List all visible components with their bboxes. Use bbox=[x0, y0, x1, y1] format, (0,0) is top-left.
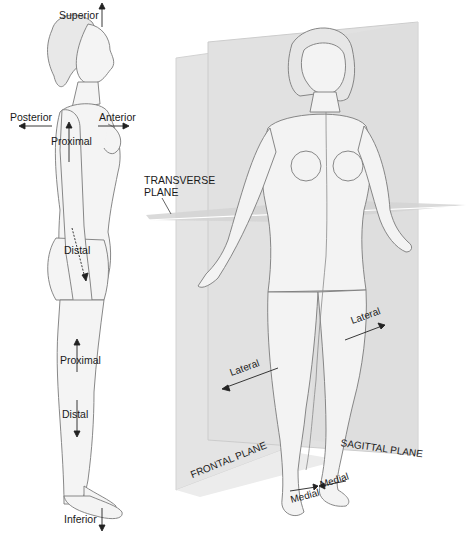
label-distal-leg: Distal bbox=[62, 409, 88, 420]
label-anterior: Anterior bbox=[99, 112, 136, 123]
label-transverse-plane-line2: PLANE bbox=[144, 187, 178, 198]
label-superior: Superior bbox=[59, 10, 99, 21]
label-posterior: Posterior bbox=[10, 112, 52, 123]
label-proximal-leg: Proximal bbox=[60, 355, 101, 366]
side-view-figure bbox=[48, 15, 123, 519]
label-transverse-plane-line1: TRANSVERSE bbox=[144, 175, 215, 186]
label-distal-arm: Distal bbox=[64, 245, 90, 256]
anatomy-figure: Superior Inferior Posterior Anterior Pro… bbox=[0, 0, 473, 533]
label-inferior: Inferior bbox=[64, 514, 97, 525]
label-proximal-arm: Proximal bbox=[51, 136, 92, 147]
